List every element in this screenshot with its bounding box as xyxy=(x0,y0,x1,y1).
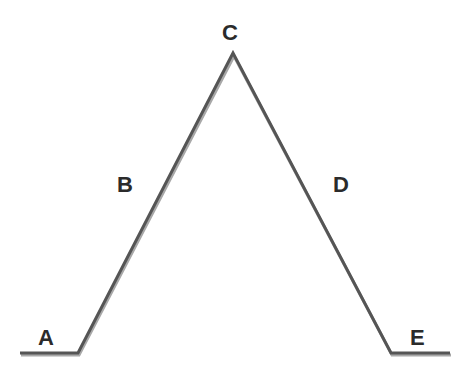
label-c: C xyxy=(222,22,238,44)
label-e: E xyxy=(410,327,425,349)
path-shadow xyxy=(21,56,451,355)
mountain-path-line xyxy=(20,53,450,353)
diagram-canvas xyxy=(0,0,469,377)
label-b: B xyxy=(117,174,133,196)
label-d: D xyxy=(333,174,349,196)
label-a: A xyxy=(38,327,54,349)
